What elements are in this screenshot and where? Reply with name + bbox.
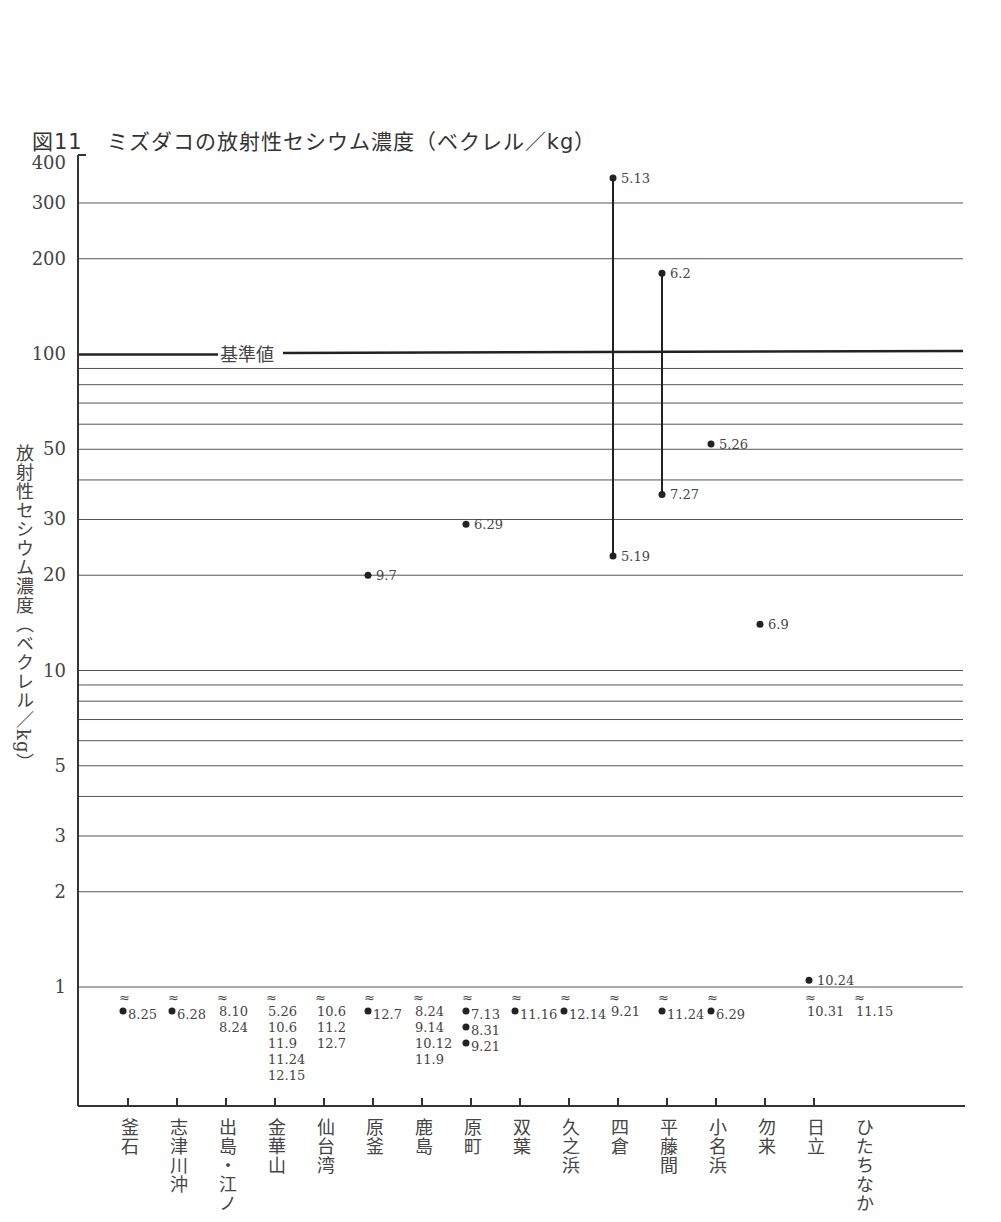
x-category-label: 平藤間 <box>655 1118 679 1175</box>
not-detected-symbol: ≈ <box>609 990 620 1005</box>
x-category-label: 久之浜 <box>557 1118 581 1175</box>
not-detected-label: 12.14 <box>569 1007 606 1022</box>
y-tick-label: 5 <box>55 755 66 776</box>
not-detected-label: 11.16 <box>520 1007 557 1022</box>
not-detected-symbol: ≈ <box>413 990 424 1005</box>
not-detected-label: 8.31 <box>471 1023 500 1038</box>
not-detected-point <box>365 1008 372 1015</box>
y-tick-label: 20 <box>43 564 66 585</box>
data-point <box>806 977 813 984</box>
data-point-label: 5.19 <box>621 549 650 564</box>
x-category-label: 出島・江ノ <box>214 1118 238 1213</box>
y-tick-label: 3 <box>55 825 66 846</box>
not-detected-label: 11.9 <box>268 1036 297 1051</box>
y-tick-label: 100 <box>32 343 66 364</box>
not-detected-label: 10.6 <box>268 1020 297 1035</box>
x-category-label: 鹿島 <box>410 1118 434 1156</box>
not-detected-label: 8.24 <box>219 1020 248 1035</box>
not-detected-symbol: ≈ <box>658 990 669 1005</box>
y-tick-label: 400 <box>32 152 66 173</box>
data-point-label: 5.13 <box>621 171 650 186</box>
y-tick-label: 2 <box>55 881 66 902</box>
data-point-label: 10.24 <box>817 973 854 988</box>
not-detected-label: 11.2 <box>317 1020 346 1035</box>
not-detected-label: 11.9 <box>415 1052 444 1067</box>
not-detected-symbol: ≈ <box>462 990 473 1005</box>
not-detected-point <box>463 1024 470 1031</box>
not-detected-symbol: ≈ <box>266 990 277 1005</box>
not-detected-label: 8.10 <box>219 1004 248 1019</box>
not-detected-label: 11.24 <box>268 1052 305 1067</box>
not-detected-symbol: ≈ <box>511 990 522 1005</box>
data-point <box>659 491 666 498</box>
not-detected-symbol: ≈ <box>364 990 375 1005</box>
y-tick-label: 1 <box>55 976 66 997</box>
data-point-label: 7.27 <box>670 487 699 502</box>
not-detected-symbol: ≈ <box>119 990 130 1005</box>
x-category-label: 釜石 <box>116 1118 140 1156</box>
x-category-label: 志津川沖 <box>165 1118 189 1194</box>
not-detected-point <box>463 1040 470 1047</box>
data-point <box>610 553 617 560</box>
not-detected-label: 5.26 <box>268 1004 297 1019</box>
not-detected-label: 10.31 <box>807 1004 844 1019</box>
x-category-label: 勿来 <box>753 1118 777 1156</box>
x-category-label: 金華山 <box>263 1118 287 1175</box>
not-detected-point <box>512 1008 519 1015</box>
x-category-label: 小名浜 <box>704 1118 728 1175</box>
y-tick-label: 50 <box>43 438 66 459</box>
y-tick-label: 300 <box>32 192 66 213</box>
data-point <box>463 521 470 528</box>
not-detected-label: 7.13 <box>471 1007 500 1022</box>
not-detected-label: 8.24 <box>415 1004 444 1019</box>
data-point <box>610 174 617 181</box>
not-detected-label: 9.21 <box>471 1039 500 1054</box>
not-detected-symbol: ≈ <box>168 990 179 1005</box>
not-detected-point <box>708 1008 715 1015</box>
x-category-label: 日立 <box>802 1118 826 1156</box>
data-point-label: 6.2 <box>670 266 691 281</box>
not-detected-label: 6.29 <box>716 1007 745 1022</box>
x-category-label: 仙台湾 <box>312 1118 336 1175</box>
not-detected-symbol: ≈ <box>854 990 865 1005</box>
x-category-label: ひたちなか <box>851 1118 875 1213</box>
not-detected-symbol: ≈ <box>805 990 816 1005</box>
not-detected-point <box>169 1008 176 1015</box>
not-detected-label: 12.15 <box>268 1068 305 1083</box>
y-tick-label: 200 <box>32 248 66 269</box>
data-point-label: 9.7 <box>376 568 397 583</box>
data-point <box>365 572 372 579</box>
not-detected-label: 10.12 <box>415 1036 452 1051</box>
not-detected-label: 11.24 <box>667 1007 704 1022</box>
not-detected-symbol: ≈ <box>707 990 718 1005</box>
not-detected-label: 6.28 <box>177 1007 206 1022</box>
x-category-label: 四倉 <box>606 1118 630 1156</box>
data-point <box>708 440 715 447</box>
not-detected-symbol: ≈ <box>217 990 228 1005</box>
not-detected-label: 12.7 <box>317 1036 346 1051</box>
x-category-label: 原釜 <box>361 1118 385 1156</box>
reference-line <box>283 351 963 353</box>
not-detected-point <box>120 1008 127 1015</box>
not-detected-label: 8.25 <box>128 1007 157 1022</box>
chart-plot: 123510203050100200300400基準値5.135.196.27.… <box>0 0 1001 1222</box>
not-detected-label: 10.6 <box>317 1004 346 1019</box>
not-detected-point <box>561 1008 568 1015</box>
x-category-label: 原町 <box>459 1118 483 1156</box>
not-detected-symbol: ≈ <box>560 990 571 1005</box>
not-detected-label: 9.14 <box>415 1020 444 1035</box>
y-tick-label: 30 <box>43 508 66 529</box>
x-category-label: 双葉 <box>508 1118 532 1156</box>
reference-line-label: 基準値 <box>220 344 274 365</box>
data-point-label: 5.26 <box>719 437 748 452</box>
not-detected-point <box>463 1008 470 1015</box>
data-point-label: 6.29 <box>474 517 503 532</box>
data-point <box>757 621 764 628</box>
y-tick-label: 10 <box>43 660 66 681</box>
data-point <box>659 270 666 277</box>
not-detected-point <box>659 1008 666 1015</box>
not-detected-label: 11.15 <box>856 1004 893 1019</box>
data-point-label: 6.9 <box>768 617 789 632</box>
not-detected-label: 12.7 <box>373 1007 402 1022</box>
not-detected-symbol: ≈ <box>315 990 326 1005</box>
